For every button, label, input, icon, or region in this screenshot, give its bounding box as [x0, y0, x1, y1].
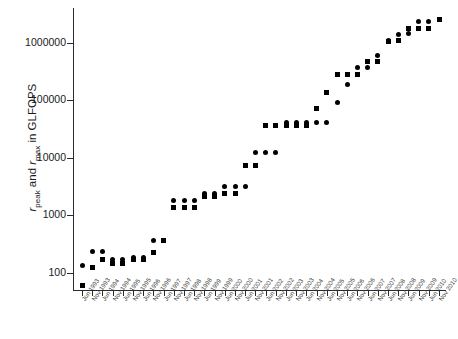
data-point-r-max	[151, 250, 156, 255]
data-point-r-peak	[365, 65, 370, 70]
data-point-r-max	[233, 191, 238, 196]
data-point-r-max	[375, 59, 380, 64]
data-point-r-max	[273, 123, 278, 128]
data-point-r-max	[426, 26, 431, 31]
y-tick-mark	[67, 273, 74, 274]
data-point-r-peak	[345, 82, 350, 87]
data-point-r-peak	[273, 150, 278, 155]
y-tick-label: 100	[0, 266, 66, 278]
data-point-r-peak	[90, 249, 95, 254]
data-point-r-max	[131, 257, 136, 262]
data-point-r-max	[110, 261, 115, 266]
data-point-r-max	[263, 123, 268, 128]
data-point-r-max	[396, 38, 401, 43]
y-tick-mark	[67, 215, 74, 216]
data-point-r-max	[304, 123, 309, 128]
data-point-r-max	[192, 205, 197, 210]
data-point-r-max	[100, 257, 105, 262]
data-point-r-peak	[375, 53, 380, 58]
y-tick-label: 100000	[0, 93, 66, 105]
data-point-r-peak	[335, 100, 340, 105]
data-point-r-max	[161, 238, 166, 243]
data-point-r-peak	[314, 120, 319, 125]
data-point-r-max	[284, 123, 289, 128]
data-point-r-peak	[324, 120, 329, 125]
data-point-r-max	[212, 194, 217, 199]
data-point-r-max	[171, 205, 176, 210]
data-point-r-max	[406, 26, 411, 31]
y-axis-label: rpeak and rmax in GLFOPS	[26, 38, 41, 258]
data-point-r-peak	[233, 184, 238, 189]
data-point-r-peak	[426, 19, 431, 24]
y-axis-spine	[73, 8, 74, 291]
data-point-r-max	[355, 72, 360, 77]
data-point-r-max	[335, 72, 340, 77]
data-point-r-max	[182, 205, 187, 210]
data-point-r-peak	[80, 263, 85, 268]
data-point-r-peak	[222, 184, 227, 189]
data-point-r-max	[243, 163, 248, 168]
data-point-r-max	[437, 17, 442, 22]
data-point-r-peak	[396, 32, 401, 37]
y-tick-mark	[67, 100, 74, 101]
y-tick-label: 1000	[0, 208, 66, 220]
data-point-r-peak	[416, 19, 421, 24]
data-point-r-max	[294, 123, 299, 128]
y-tick-mark	[67, 43, 74, 44]
data-point-r-peak	[243, 184, 248, 189]
data-point-r-peak	[355, 65, 360, 70]
data-point-r-max	[222, 191, 227, 196]
y-tick-label: 1000000	[0, 36, 66, 48]
y-axis-label-sub-peak: peak	[33, 190, 42, 207]
data-point-r-peak	[100, 249, 105, 254]
data-point-r-peak	[263, 150, 268, 155]
data-point-r-max	[386, 39, 391, 44]
data-point-r-max	[80, 283, 85, 288]
data-point-r-max	[314, 106, 319, 111]
data-point-r-max	[90, 265, 95, 270]
data-point-r-max	[345, 72, 350, 77]
data-point-r-peak	[151, 238, 156, 243]
data-point-r-max	[141, 257, 146, 262]
data-point-r-max	[324, 90, 329, 95]
data-point-r-peak	[171, 198, 176, 203]
y-tick-mark	[67, 158, 74, 159]
y-axis-label-conjunction: and	[26, 165, 38, 191]
data-point-r-max	[120, 261, 125, 266]
data-point-r-peak	[182, 198, 187, 203]
y-tick-label: 10000	[0, 151, 66, 163]
data-point-r-max	[365, 59, 370, 64]
data-point-r-max	[202, 194, 207, 199]
data-point-r-peak	[192, 198, 197, 203]
data-point-r-peak	[253, 150, 258, 155]
data-point-r-peak	[406, 31, 411, 36]
data-point-r-max	[253, 163, 258, 168]
data-point-r-max	[416, 26, 421, 31]
